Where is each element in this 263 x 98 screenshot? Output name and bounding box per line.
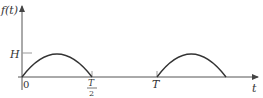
half-period-numerator: T — [88, 78, 95, 88]
amplitude-label: H — [9, 48, 20, 61]
period-label: T — [152, 78, 161, 91]
half-wave-pulse-diagram: f(t) t H 0 T 2 T — [0, 0, 263, 98]
pulse-arc-1 — [22, 54, 92, 77]
x-axis-label: t — [252, 82, 257, 95]
origin-label: 0 — [23, 79, 29, 90]
half-period-denominator: 2 — [89, 89, 94, 98]
y-axis-label: f(t) — [0, 4, 18, 17]
pulse-arc-2 — [157, 54, 226, 77]
